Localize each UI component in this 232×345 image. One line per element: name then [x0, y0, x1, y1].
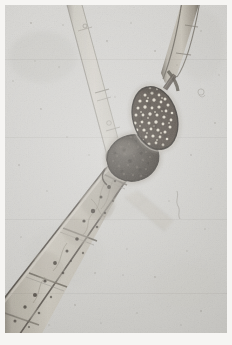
micrograph-image [5, 5, 227, 333]
plate-caption [5, 333, 227, 345]
photo-page: Filamentous green alga with oogonium and… [0, 0, 232, 345]
micrograph-plate [5, 5, 227, 333]
film-grain [5, 5, 227, 333]
